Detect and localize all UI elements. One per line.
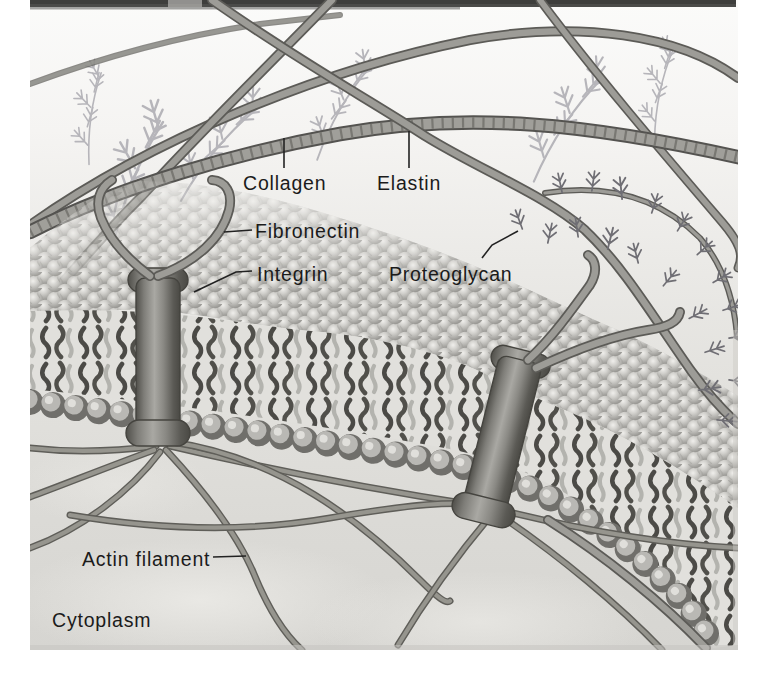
- label-elastin: Elastin: [377, 173, 441, 193]
- label-cytoplasm: Cytoplasm: [52, 610, 151, 630]
- ecm-figure: Collagen Elastin Fibronectin Integrin Pr…: [0, 0, 768, 681]
- integrin-left: [126, 268, 190, 446]
- figure-right-edge: [733, 330, 738, 650]
- figure-bottom-edge: [30, 645, 738, 650]
- label-proteoglycan: Proteoglycan: [389, 264, 512, 284]
- label-fibronectin: Fibronectin: [255, 221, 360, 241]
- label-actin-filament: Actin filament: [82, 549, 210, 569]
- ecm-artwork: [0, 0, 768, 681]
- actin-filament-leader-line: [213, 556, 246, 557]
- label-integrin: Integrin: [257, 264, 328, 284]
- label-collagen: Collagen: [243, 173, 326, 193]
